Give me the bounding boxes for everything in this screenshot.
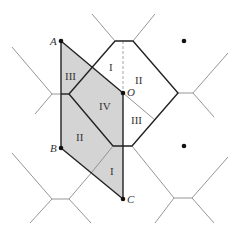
shaded-unit-cell (61, 41, 123, 199)
region-label: IV (99, 100, 111, 112)
point-label-C: C (127, 193, 135, 205)
region-label: I (109, 61, 113, 73)
region-label: III (131, 114, 142, 126)
voronoi-diagram: A B C O III I II IV III II I (0, 0, 238, 231)
region-label: I (110, 165, 114, 177)
region-label: II (76, 131, 84, 143)
point-C-dot (121, 197, 126, 202)
lattice-dot-upper-right (182, 39, 187, 44)
point-A-dot (59, 39, 64, 44)
point-label-O: O (127, 86, 135, 98)
region-label: II (135, 74, 143, 86)
point-label-A: A (49, 35, 57, 47)
lattice-dot-lower-right (182, 144, 187, 149)
region-label: III (65, 70, 76, 82)
point-label-B: B (50, 142, 57, 154)
point-O-dot (121, 91, 126, 96)
diagram-canvas: A B C O III I II IV III II I (0, 0, 238, 231)
point-B-dot (59, 146, 64, 151)
